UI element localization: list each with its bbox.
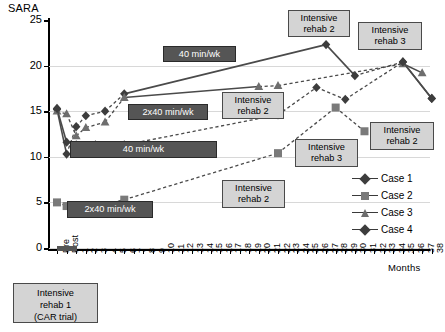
x-tick-mark [307, 249, 308, 254]
legend-label: Case 2 [381, 190, 413, 202]
x-tick-mark [413, 249, 414, 254]
x-tick-mark [249, 249, 250, 254]
legend-symbol [361, 192, 369, 200]
x-tick-mark [230, 249, 231, 254]
annotation-intensive-rehab-2-mid: Intensive rehab 2 [222, 92, 284, 119]
x-tick-mark [384, 249, 385, 254]
x-tick-mark [86, 249, 87, 254]
x-tick-mark [259, 249, 260, 254]
y-tick-mark [44, 248, 49, 250]
legend-marker-diamond-icon [352, 224, 378, 236]
y-tick-label: 15 [16, 104, 42, 116]
annotation-2x40-min-wk-mid: 2x40 min/wk [128, 104, 208, 120]
x-tick-label: 38 [435, 243, 445, 253]
x-tick-label: 23 [291, 243, 301, 253]
x-tick-mark [143, 249, 144, 254]
y-tick-label: 25 [16, 13, 42, 25]
legend-symbol [359, 224, 370, 235]
x-tick-mark [326, 249, 327, 254]
x-tick-label: 28 [339, 243, 349, 253]
x-tick-label: 35 [406, 243, 416, 253]
x-tick-label: 30 [358, 243, 368, 253]
annotation-intensive-rehab-3-low: Intensive rehab 3 [295, 139, 358, 167]
annotation-intensive-rehab-3-top: Intensive rehab 3 [358, 22, 422, 50]
legend-label: Case 4 [381, 224, 413, 236]
x-tick-label: 15 [214, 243, 224, 253]
legend: Case 1Case 2Case 3Case 4 [352, 170, 436, 238]
y-tick-label: 0 [16, 241, 42, 253]
x-tick-mark [163, 249, 164, 254]
x-tick-label: 17 [233, 243, 243, 253]
y-tick-label: 20 [16, 59, 42, 71]
annotation-intensive-rehab-2-right: Intensive rehab 2 [370, 122, 434, 150]
x-tick-label: 21 [272, 243, 282, 253]
x-tick-mark [316, 249, 317, 254]
annotation-2x40-min-wk-low: 2x40 min/wk [67, 201, 153, 218]
x-tick-mark [364, 249, 365, 254]
x-tick-mark [403, 249, 404, 254]
x-tick-label: 22 [282, 243, 292, 253]
legend-marker-triangle-icon [352, 207, 378, 219]
x-tick-mark [393, 249, 394, 254]
x-tick-label: 3 [99, 248, 109, 253]
legend-symbol [361, 209, 369, 217]
gridline [49, 66, 430, 67]
x-tick-mark [172, 249, 173, 254]
x-tick-label: 33 [387, 243, 397, 253]
legend-item-case-2[interactable]: Case 2 [352, 187, 436, 204]
legend-item-case-3[interactable]: Case 3 [352, 204, 436, 221]
x-tick-label: 25 [310, 243, 320, 253]
legend-symbol [359, 173, 370, 184]
legend-marker-diamond-icon [352, 173, 378, 185]
y-tick-mark [44, 20, 49, 22]
x-tick-mark [201, 249, 202, 254]
legend-label: Case 1 [381, 173, 413, 185]
x-tick-mark [182, 249, 183, 254]
legend-marker-square-icon [352, 190, 378, 202]
x-tick-label: 2 [89, 248, 99, 253]
x-tick-mark [432, 249, 433, 254]
x-tick-label: 36 [416, 243, 426, 253]
x-tick-mark [422, 249, 423, 254]
x-tick-label: 18 [243, 243, 253, 253]
x-tick-mark [95, 249, 96, 254]
x-tick-mark [105, 249, 106, 254]
x-tick-mark [115, 249, 116, 254]
legend-item-case-4[interactable]: Case 4 [352, 221, 436, 238]
y-tick-mark [44, 157, 49, 159]
x-tick-label: 8 [147, 248, 157, 253]
x-tick-label: 12 [185, 243, 195, 253]
annotation-intensive-rehab-1: Intensive rehab 1 (CAR trial) [13, 283, 98, 323]
x-tick-mark [134, 249, 135, 254]
y-tick-mark [44, 111, 49, 113]
annotation-intensive-rehab-2-top: Intensive rehab 2 [288, 10, 350, 37]
y-tick-label: 10 [16, 150, 42, 162]
annotation-intensive-rehab-2-bottom: Intensive rehab 2 [222, 180, 285, 208]
y-tick-mark [44, 202, 49, 204]
x-tick-mark [220, 249, 221, 254]
x-tick-mark [345, 249, 346, 254]
legend-label: Case 3 [381, 207, 413, 219]
y-tick-label: 5 [16, 195, 42, 207]
x-tick-label: 7 [137, 248, 147, 253]
rehab1-period-bar [57, 246, 77, 251]
x-tick-mark [153, 249, 154, 254]
x-tick-label: 13 [195, 243, 205, 253]
x-tick-mark [288, 249, 289, 254]
x-tick-mark [192, 249, 193, 254]
x-tick-mark [124, 249, 125, 254]
x-tick-mark [336, 249, 337, 254]
annotation-40-min-wk-top: 40 min/wk [163, 46, 236, 62]
x-tick-mark [355, 249, 356, 254]
x-tick-label: 20 [262, 243, 272, 253]
x-tick-label: 26 [320, 243, 330, 253]
legend-item-case-1[interactable]: Case 1 [352, 170, 436, 187]
annotation-40-min-wk-mid: 40 min/wk [70, 141, 217, 158]
x-tick-mark [278, 249, 279, 254]
x-tick-label: 10 [166, 243, 176, 253]
x-tick-mark [268, 249, 269, 254]
x-tick-mark [211, 249, 212, 254]
x-tick-label: 5 [118, 248, 128, 253]
x-tick-mark [240, 249, 241, 254]
